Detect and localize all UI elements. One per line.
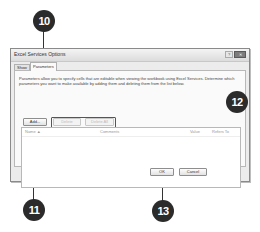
delete-button[interactable]: Delete (53, 118, 81, 126)
callout-badge-11: 11 (23, 199, 45, 221)
close-button[interactable]: ✕ (234, 51, 246, 58)
parameters-description: Parameters allow you to specify cells th… (19, 76, 241, 86)
parameters-panel: Parameters allow you to specify cells th… (14, 70, 246, 167)
title-bar-buttons: ? ✕ (225, 51, 246, 58)
tab-strip: Show Parameters (14, 62, 57, 70)
column-value[interactable]: Value (190, 129, 200, 134)
ok-button[interactable]: OK (150, 168, 174, 176)
help-icon: ? (228, 52, 230, 57)
callout-badge-12: 12 (226, 91, 248, 113)
tab-parameters[interactable]: Parameters (30, 62, 57, 71)
column-comments[interactable]: Comments (100, 129, 119, 134)
close-icon: ✕ (239, 52, 242, 57)
delete-all-button[interactable]: Delete All (85, 118, 114, 126)
callout-badge-10: 10 (33, 10, 55, 32)
column-refers-to[interactable]: Refers To (212, 129, 229, 134)
help-button[interactable]: ? (225, 51, 233, 58)
title-bar: Excel Services Options ? ✕ (11, 49, 249, 62)
cancel-button[interactable]: Cancel (179, 168, 207, 176)
parameters-list[interactable]: Name ▲ Comments Value Refers To (21, 127, 241, 188)
callout-badge-13: 13 (152, 200, 174, 222)
excel-services-options-dialog: Excel Services Options ? ✕ Show Paramete… (10, 48, 250, 182)
column-name[interactable]: Name ▲ (25, 129, 41, 134)
add-button[interactable]: Add... (23, 118, 47, 126)
list-header: Name ▲ Comments Value Refers To (22, 128, 240, 137)
dialog-title: Excel Services Options (14, 51, 65, 57)
